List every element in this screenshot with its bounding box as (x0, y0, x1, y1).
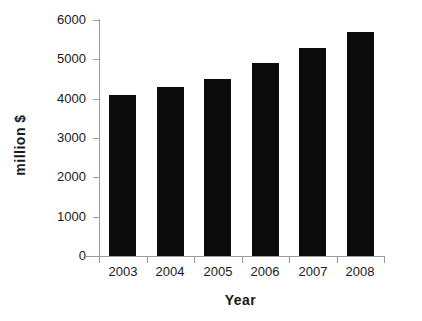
y-axis-tick-label-text: 1000 (30, 210, 86, 223)
y-axis-tick-label: 6000 (30, 13, 86, 26)
y-axis-tick-label-text: 2000 (30, 170, 86, 183)
x-axis-tick (337, 256, 338, 263)
y-axis-tick-label-text: 3000 (30, 131, 86, 144)
x-axis-tick (147, 256, 148, 263)
bar (299, 48, 326, 256)
y-axis-title: million $ (12, 60, 34, 230)
plot-area (99, 20, 384, 256)
x-axis-tick (194, 256, 195, 263)
y-axis-tick-label-text: 4000 (30, 92, 86, 105)
x-axis-title: Year (98, 292, 383, 308)
y-axis-tick-label: 3000 (30, 131, 86, 144)
x-axis-tick-label: 2004 (144, 265, 196, 279)
y-axis-tick-label-text: 5000 (30, 52, 86, 65)
bar (204, 79, 231, 256)
y-axis-tick-label: 5000 (30, 52, 86, 65)
bar (157, 87, 184, 256)
x-axis-tick-label: 2003 (97, 265, 149, 279)
bar (252, 63, 279, 256)
bar-chart: million $ 0100020003000400050006000 2003… (0, 0, 422, 321)
y-axis-tick-label: 0 (30, 249, 86, 262)
y-axis-tick-label-text: 0 (30, 249, 86, 262)
bar (347, 32, 374, 256)
x-axis-tick-label: 2006 (239, 265, 291, 279)
y-axis-tick-label-text: 6000 (30, 13, 86, 26)
x-axis-tick (99, 256, 100, 263)
x-axis-tick-label: 2005 (192, 265, 244, 279)
x-axis-tick (242, 256, 243, 263)
x-axis-tick-label: 2007 (287, 265, 339, 279)
bar (109, 95, 136, 256)
y-axis-tick-label: 2000 (30, 170, 86, 183)
x-axis-line (86, 256, 384, 257)
y-axis-tick-label: 4000 (30, 92, 86, 105)
x-axis-tick (289, 256, 290, 263)
x-axis-tick (384, 256, 385, 263)
y-axis-tick-label: 1000 (30, 210, 86, 223)
x-axis-tick-label: 2008 (334, 265, 386, 279)
